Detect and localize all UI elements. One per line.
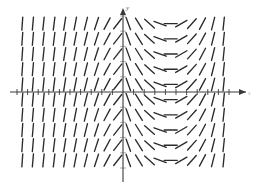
slope-mark	[104, 33, 110, 44]
slope-mark	[223, 78, 224, 91]
slope-mark	[32, 124, 33, 137]
slope-mark	[74, 17, 76, 30]
slope-mark	[32, 63, 33, 76]
slope-mark	[126, 17, 130, 29]
slope-mark	[104, 109, 110, 120]
slope-mark	[135, 18, 142, 29]
slope-mark	[212, 63, 215, 76]
slope-mark	[223, 17, 224, 30]
slope-mark	[223, 63, 224, 76]
slope-mark	[43, 93, 44, 106]
slope-mark	[74, 32, 76, 45]
slope-mark	[135, 94, 142, 105]
slope-mark	[188, 95, 197, 105]
slope-mark	[104, 18, 110, 29]
slope-mark	[53, 78, 55, 91]
slope-mark	[84, 78, 87, 91]
slope-mark	[84, 108, 87, 121]
slope-mark	[199, 48, 205, 59]
slope-mark	[114, 110, 122, 120]
slope-mark	[43, 32, 44, 45]
slope-mark	[64, 108, 66, 121]
slope-mark	[53, 93, 55, 106]
slope-mark	[53, 108, 55, 121]
x-axis-label: x	[247, 90, 251, 96]
slope-mark	[43, 124, 44, 137]
slope-mark	[74, 78, 76, 91]
slope-mark	[22, 63, 23, 76]
slope-mark	[145, 126, 155, 135]
slope-mark	[22, 78, 23, 91]
slope-mark	[22, 139, 23, 152]
slope-mark	[188, 140, 197, 150]
slope-mark	[199, 139, 205, 150]
slope-mark	[223, 93, 224, 106]
slope-mark	[84, 32, 87, 45]
slope-mark	[94, 139, 98, 151]
slope-mark	[114, 64, 122, 74]
slope-mark	[94, 154, 98, 166]
slope-mark	[64, 93, 66, 106]
slope-mark	[84, 139, 87, 152]
slope-mark	[212, 108, 215, 121]
slope-mark	[188, 19, 197, 29]
slope-mark	[114, 155, 122, 165]
slope-mark	[188, 64, 197, 74]
slope-mark	[53, 17, 55, 30]
slope-mark	[64, 154, 66, 167]
slope-mark	[135, 64, 142, 75]
slope-mark	[145, 80, 155, 89]
slope-mark	[199, 63, 205, 74]
slope-mark	[126, 139, 130, 151]
slope-mark	[145, 156, 155, 165]
slope-mark	[212, 17, 215, 30]
slope-mark	[43, 78, 44, 91]
slope-mark	[223, 48, 224, 61]
slope-mark	[84, 93, 87, 106]
slope-mark	[53, 63, 55, 76]
slope-mark	[199, 109, 205, 120]
slope-mark	[126, 109, 130, 121]
slope-field-figure: y x	[0, 0, 255, 189]
slope-mark	[43, 63, 44, 76]
slope-mark	[223, 124, 224, 137]
slope-mark	[74, 139, 76, 152]
slope-mark	[114, 34, 122, 44]
slope-mark	[22, 154, 23, 167]
slope-mark	[135, 33, 142, 44]
slope-mark	[53, 139, 55, 152]
slope-mark	[22, 48, 23, 61]
slope-mark	[94, 33, 98, 45]
slope-mark	[223, 32, 224, 45]
slope-mark	[22, 32, 23, 45]
slope-mark	[32, 32, 33, 45]
slope-mark	[114, 94, 122, 104]
slope-mark	[135, 48, 142, 59]
slope-mark	[212, 78, 215, 91]
slope-mark	[43, 139, 44, 152]
slope-mark	[135, 155, 142, 166]
slope-mark	[94, 17, 98, 29]
slope-mark	[22, 17, 23, 30]
slope-mark	[53, 124, 55, 137]
slope-mark	[94, 109, 98, 121]
slope-mark	[223, 139, 224, 152]
slope-mark	[188, 110, 197, 120]
slope-mark	[212, 124, 215, 137]
slope-mark	[104, 63, 110, 74]
slope-mark	[212, 139, 215, 152]
x-axis-arrowhead	[239, 89, 246, 95]
slope-mark	[84, 124, 87, 137]
slope-mark	[223, 154, 224, 167]
slope-mark	[126, 124, 130, 136]
slope-mark	[126, 33, 130, 45]
slope-mark	[43, 108, 44, 121]
slope-mark	[32, 108, 33, 121]
slope-mark	[188, 156, 197, 166]
slope-mark	[32, 17, 33, 30]
slope-mark	[32, 139, 33, 152]
slope-mark	[104, 79, 110, 90]
slope-mark	[135, 79, 142, 90]
slope-mark	[145, 50, 155, 59]
slope-mark	[199, 79, 205, 90]
